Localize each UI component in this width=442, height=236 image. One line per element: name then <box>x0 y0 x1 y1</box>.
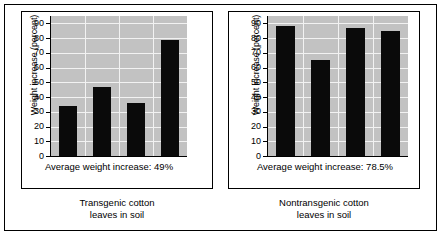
bar <box>346 28 364 156</box>
y-tick-label: 90 <box>240 19 261 28</box>
y-tick-mark <box>263 53 267 54</box>
bar <box>161 40 179 156</box>
bar <box>59 106 77 156</box>
bar <box>381 31 399 156</box>
bar <box>276 26 294 156</box>
plot-area-transgenic <box>51 16 187 156</box>
gridline-vertical <box>373 16 374 156</box>
y-tick-label: 50 <box>23 78 44 87</box>
y-tick-mark <box>263 68 267 69</box>
group-label-line2: leaves in soil <box>228 209 420 221</box>
gridline-vertical <box>85 16 86 156</box>
y-tick-mark <box>263 141 267 142</box>
y-tick-mark <box>46 141 50 142</box>
average-caption-transgenic: Average weight increase: 49% <box>25 161 193 172</box>
y-tick-label: 0 <box>23 152 44 161</box>
y-tick-mark <box>263 97 267 98</box>
panel-container: Weight increase (percent) 90807060504030… <box>5 5 436 230</box>
group-label-line1: Transgenic cotton <box>79 197 154 208</box>
y-tick-label: 0 <box>240 152 261 161</box>
gridline-vertical <box>119 16 120 156</box>
y-tick-mark <box>263 23 267 24</box>
y-tick-mark <box>263 127 267 128</box>
y-tick-mark <box>263 112 267 113</box>
group-label-line1: Nontransgenic cotton <box>279 197 369 208</box>
y-tick-mark <box>263 82 267 83</box>
y-tick-mark <box>263 38 267 39</box>
y-tick-label: 10 <box>23 137 44 146</box>
y-tick-mark <box>46 127 50 128</box>
y-tick-label: 50 <box>240 78 261 87</box>
bar <box>93 87 111 156</box>
y-tick-mark <box>46 53 50 54</box>
bar <box>311 60 329 156</box>
group-label-nontransgenic: Nontransgenic cotton leaves in soil <box>228 197 420 220</box>
y-tick-mark <box>263 156 267 157</box>
panel-nontransgenic: Weight increase (percent) 90807060504030… <box>228 5 436 230</box>
y-tick-label: 80 <box>23 34 44 43</box>
y-tick-mark <box>46 156 50 157</box>
average-caption-nontransgenic: Average weight increase: 78.5% <box>236 161 414 172</box>
y-axis-line <box>50 16 51 157</box>
y-tick-mark <box>46 23 50 24</box>
y-tick-mark <box>46 68 50 69</box>
y-tick-mark <box>46 97 50 98</box>
x-axis-line <box>267 156 408 157</box>
group-label-transgenic: Transgenic cotton leaves in soil <box>21 197 213 220</box>
x-axis-line <box>50 156 187 157</box>
y-tick-label: 40 <box>23 93 44 102</box>
bar <box>127 103 145 156</box>
y-tick-mark <box>46 38 50 39</box>
y-tick-mark <box>46 82 50 83</box>
y-tick-label: 60 <box>23 63 44 72</box>
y-tick-label: 30 <box>240 107 261 116</box>
y-tick-label: 10 <box>240 137 261 146</box>
y-tick-label: 70 <box>23 48 44 57</box>
panel-transgenic: Weight increase (percent) 90807060504030… <box>5 5 213 230</box>
y-tick-label: 60 <box>240 63 261 72</box>
y-tick-label: 40 <box>240 93 261 102</box>
y-tick-label: 20 <box>23 122 44 131</box>
y-tick-label: 30 <box>23 107 44 116</box>
y-tick-label: 90 <box>23 19 44 28</box>
y-tick-mark <box>46 112 50 113</box>
gridline-vertical <box>303 16 304 156</box>
plot-area-nontransgenic <box>268 16 408 156</box>
y-tick-label: 20 <box>240 122 261 131</box>
gridline-vertical <box>338 16 339 156</box>
y-tick-label: 80 <box>240 34 261 43</box>
y-tick-label: 70 <box>240 48 261 57</box>
gridline-vertical <box>153 16 154 156</box>
y-axis-line <box>267 16 268 157</box>
group-label-line2: leaves in soil <box>21 209 213 221</box>
figure: Weight increase (percent) 90807060504030… <box>0 0 442 236</box>
